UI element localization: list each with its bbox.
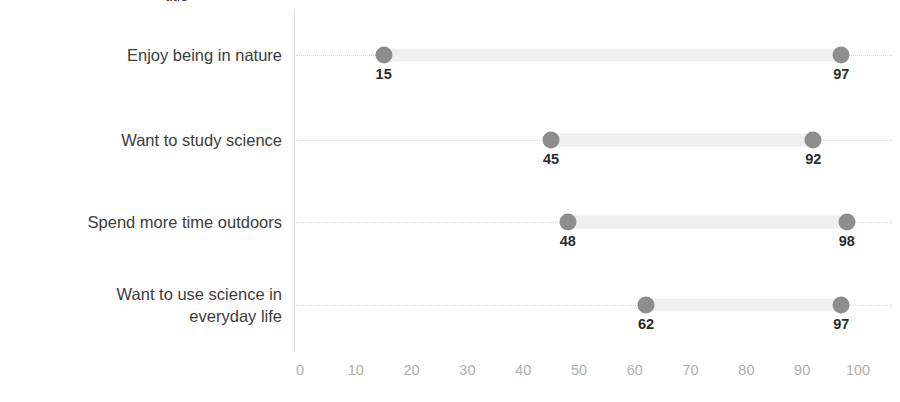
data-point-dot-low[interactable] bbox=[559, 214, 576, 231]
x-tick-label: 80 bbox=[716, 361, 776, 379]
category-label: Want to use science in everyday life bbox=[0, 283, 282, 327]
range-connector bbox=[551, 134, 813, 147]
data-point-value-high: 97 bbox=[811, 66, 871, 82]
data-point-dot-high[interactable] bbox=[838, 214, 855, 231]
data-point-value-low: 62 bbox=[616, 316, 676, 332]
range-connector bbox=[568, 216, 847, 229]
x-tick-label: 70 bbox=[661, 361, 721, 379]
x-tick-label: 30 bbox=[437, 361, 497, 379]
range-connector bbox=[646, 299, 841, 312]
data-point-value-low: 45 bbox=[521, 151, 581, 167]
x-tick-label: 0 bbox=[270, 361, 330, 379]
data-point-value-high: 98 bbox=[817, 233, 877, 249]
data-point-dot-low[interactable] bbox=[375, 47, 392, 64]
category-label: Enjoy being in nature bbox=[0, 44, 282, 66]
chart-title-cutoff: title bbox=[165, 0, 225, 3]
range-connector bbox=[384, 49, 842, 62]
x-tick-label: 40 bbox=[493, 361, 553, 379]
x-tick-label: 90 bbox=[772, 361, 832, 379]
dumbbell-chart: title Enjoy being in nature1597Want to s… bbox=[0, 0, 900, 402]
x-tick-label: 10 bbox=[326, 361, 386, 379]
x-tick-label: 20 bbox=[382, 361, 442, 379]
data-point-value-high: 97 bbox=[811, 316, 871, 332]
category-label: Want to study science bbox=[0, 129, 282, 151]
x-tick-label: 50 bbox=[549, 361, 609, 379]
x-tick-label: 60 bbox=[605, 361, 665, 379]
data-point-value-high: 92 bbox=[783, 151, 843, 167]
data-point-dot-high[interactable] bbox=[833, 297, 850, 314]
data-point-value-low: 15 bbox=[354, 66, 414, 82]
x-tick-label: 100 bbox=[828, 361, 888, 379]
y-axis-spine bbox=[294, 10, 295, 352]
data-point-dot-low[interactable] bbox=[543, 132, 560, 149]
data-point-value-low: 48 bbox=[538, 233, 598, 249]
data-point-dot-high[interactable] bbox=[805, 132, 822, 149]
data-point-dot-low[interactable] bbox=[637, 297, 654, 314]
category-label: Spend more time outdoors bbox=[0, 211, 282, 233]
data-point-dot-high[interactable] bbox=[833, 47, 850, 64]
